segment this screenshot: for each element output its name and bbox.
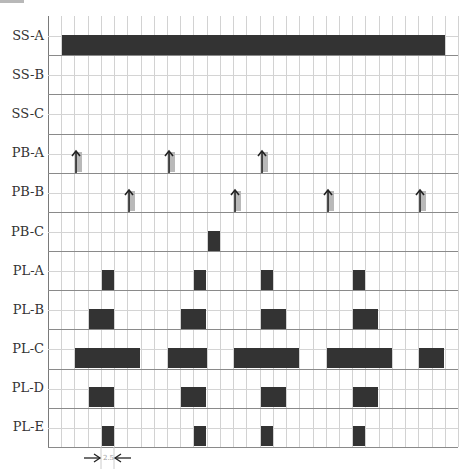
row-label: PL-B — [0, 302, 44, 317]
signal-block — [419, 348, 444, 368]
up-arrow-icon — [164, 149, 174, 177]
row-separator — [48, 329, 458, 330]
signal-block — [353, 270, 365, 290]
grid-column-line — [458, 16, 459, 447]
up-arrow-icon — [415, 188, 425, 216]
signal-block — [181, 309, 206, 329]
row-label: PL-A — [0, 263, 44, 278]
row-midline — [48, 232, 458, 233]
signal-block — [62, 35, 445, 55]
row-label: PL-E — [0, 419, 44, 434]
signal-block — [89, 387, 114, 407]
row-midline — [48, 154, 458, 155]
row-separator — [48, 251, 458, 252]
signal-block — [168, 348, 207, 368]
signal-block — [102, 270, 114, 290]
row-separator — [48, 212, 458, 213]
row-label: PB-B — [0, 184, 44, 199]
row-label: PB-C — [0, 224, 44, 239]
row-separator — [48, 94, 458, 95]
signal-block — [181, 387, 206, 407]
signal-block — [261, 270, 273, 290]
row-label: SS-A — [0, 28, 44, 43]
timing-diagram: SS-ASS-BSS-CPB-APB-BPB-CPL-APL-BPL-CPL-D… — [0, 0, 470, 473]
up-arrow-icon — [257, 149, 267, 177]
row-midline — [48, 193, 458, 194]
signal-block — [194, 426, 206, 446]
signal-block — [194, 270, 206, 290]
row-label: PL-C — [0, 341, 44, 356]
row-separator — [48, 290, 458, 291]
up-arrow-icon — [71, 149, 81, 177]
signal-block — [353, 387, 378, 407]
signal-block — [102, 426, 114, 446]
row-label: SS-C — [0, 106, 44, 121]
signal-block — [208, 231, 220, 251]
signal-block — [261, 387, 286, 407]
row-midline — [48, 75, 458, 76]
row-label: PL-D — [0, 380, 44, 395]
signal-block — [261, 426, 273, 446]
row-separator — [48, 173, 458, 174]
signal-block — [353, 426, 365, 446]
signal-block — [353, 309, 378, 329]
signal-block — [261, 309, 286, 329]
up-arrow-icon — [323, 188, 333, 216]
dimension-label: 2.5 — [102, 454, 115, 462]
row-label: PB-A — [0, 145, 44, 160]
signal-block — [89, 309, 114, 329]
row-separator — [48, 408, 458, 409]
row-separator — [48, 134, 458, 135]
up-arrow-icon — [230, 188, 240, 216]
up-arrow-icon — [124, 188, 134, 216]
signal-block — [75, 348, 140, 368]
row-separator — [48, 55, 458, 56]
row-separator — [48, 369, 458, 370]
signal-block — [327, 348, 392, 368]
row-label: SS-B — [0, 67, 44, 82]
row-midline — [48, 114, 458, 115]
signal-block — [234, 348, 299, 368]
